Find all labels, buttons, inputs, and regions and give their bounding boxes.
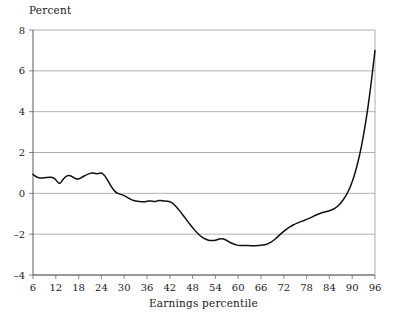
y-tick-label: 0 [19, 188, 25, 199]
x-tick-label: 24 [95, 282, 108, 293]
x-tick-label: 84 [323, 282, 336, 293]
y-tick-group: –4–202468 [14, 25, 33, 281]
y-tick-label: –2 [14, 229, 25, 240]
y-tick-label: 2 [19, 147, 25, 158]
x-tick-label: 60 [232, 282, 245, 293]
x-tick-label: 42 [163, 282, 176, 293]
x-tick-label: 90 [346, 282, 359, 293]
y-axis-title: Percent [29, 4, 71, 16]
x-tick-group: 6121824303642485460667278849096 [30, 275, 382, 293]
chart-figure: Percent –4–202468 6121824303642485460667… [0, 0, 395, 323]
x-tick-label: 48 [186, 282, 199, 293]
x-tick-label: 78 [300, 282, 313, 293]
y-tick-label: –4 [14, 270, 25, 281]
x-tick-label: 66 [255, 282, 268, 293]
data-series-line [33, 50, 375, 245]
x-tick-label: 54 [209, 282, 222, 293]
x-tick-label: 18 [72, 282, 85, 293]
y-tick-label: 4 [19, 106, 25, 117]
y-tick-label: 6 [19, 65, 25, 76]
plot-area: –4–202468 612182430364248546066727884909… [0, 0, 395, 323]
y-tick-label: 8 [19, 25, 25, 36]
x-tick-label: 6 [30, 282, 36, 293]
x-tick-label: 96 [369, 282, 382, 293]
x-tick-label: 30 [118, 282, 131, 293]
x-tick-label: 36 [141, 282, 154, 293]
x-axis-title: Earnings percentile [0, 297, 395, 309]
x-tick-label: 72 [277, 282, 290, 293]
x-tick-label: 12 [49, 282, 62, 293]
